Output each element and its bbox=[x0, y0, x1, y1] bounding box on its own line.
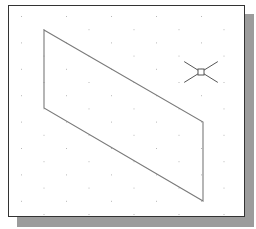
grid-dot bbox=[89, 108, 90, 109]
grid-dot bbox=[21, 95, 22, 96]
grid-dot bbox=[201, 16, 202, 17]
grid-dot bbox=[111, 95, 112, 96]
grid-dot bbox=[224, 214, 225, 215]
grid-dot bbox=[179, 161, 180, 162]
grid-dot bbox=[201, 174, 202, 175]
grid-dot bbox=[44, 214, 45, 215]
grid-dot bbox=[89, 188, 90, 189]
grid-dot bbox=[134, 108, 135, 109]
grid-dot bbox=[111, 201, 112, 202]
grid-dot bbox=[224, 29, 225, 30]
grid-dot bbox=[224, 108, 225, 109]
grid-dot bbox=[156, 201, 157, 202]
grid-dot bbox=[134, 56, 135, 57]
grid-dot bbox=[111, 16, 112, 17]
grid-dot bbox=[134, 188, 135, 189]
grid-dot bbox=[21, 201, 22, 202]
grid-dot bbox=[134, 214, 135, 215]
grid-dot bbox=[66, 95, 67, 96]
grid-dot bbox=[89, 214, 90, 215]
grid-dot bbox=[111, 174, 112, 175]
grid-dot bbox=[21, 42, 22, 43]
grid-dot bbox=[179, 135, 180, 136]
grid-dot bbox=[179, 56, 180, 57]
grid-dot bbox=[21, 174, 22, 175]
grid-dot bbox=[134, 29, 135, 30]
grid-dot bbox=[111, 122, 112, 123]
grid-dot bbox=[224, 161, 225, 162]
grid-dot bbox=[156, 148, 157, 149]
grid-dot bbox=[224, 188, 225, 189]
grid-dot bbox=[89, 82, 90, 83]
drawing-canvas[interactable] bbox=[0, 0, 256, 229]
grid-dot bbox=[156, 42, 157, 43]
grid-dot bbox=[66, 148, 67, 149]
grid-dot bbox=[156, 122, 157, 123]
grid-dot bbox=[44, 135, 45, 136]
grid-dot bbox=[21, 69, 22, 70]
grid-dot bbox=[111, 42, 112, 43]
grid-dot bbox=[224, 56, 225, 57]
grid-dot bbox=[179, 214, 180, 215]
grid-dot bbox=[44, 188, 45, 189]
grid-dot bbox=[224, 135, 225, 136]
grid-dot bbox=[21, 16, 22, 17]
grid-dot bbox=[179, 29, 180, 30]
grid-dot bbox=[201, 95, 202, 96]
grid-dot bbox=[89, 161, 90, 162]
grid-dot bbox=[156, 16, 157, 17]
grid-dot bbox=[134, 135, 135, 136]
crosshair-cursor-icon bbox=[184, 62, 218, 83]
pickbox-icon bbox=[198, 69, 204, 75]
grid-dot bbox=[201, 42, 202, 43]
grid-dot bbox=[179, 82, 180, 83]
grid-dot bbox=[224, 82, 225, 83]
grid-dot bbox=[89, 29, 90, 30]
grid-dot bbox=[66, 201, 67, 202]
grid-dot bbox=[66, 69, 67, 70]
grid-dot bbox=[66, 174, 67, 175]
grid-dot bbox=[66, 16, 67, 17]
grid-dot bbox=[21, 148, 22, 149]
grid-dot bbox=[156, 69, 157, 70]
grid-dot bbox=[201, 148, 202, 149]
grid-dot bbox=[21, 122, 22, 123]
grid-dot bbox=[44, 161, 45, 162]
isometric-grid bbox=[21, 16, 225, 215]
